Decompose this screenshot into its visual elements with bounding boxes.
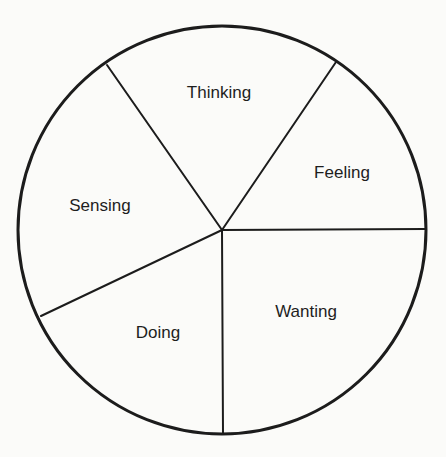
sector-label-feeling: Feeling [314, 163, 370, 182]
divider-feeling-wanting [222, 229, 425, 230]
divider-doing-sensing [41, 230, 222, 316]
sector-label-thinking: Thinking [187, 83, 251, 102]
sector-label-wanting: Wanting [275, 302, 337, 321]
pie-diagram: Thinking Feeling Wanting Doing Sensing [0, 0, 446, 457]
divider-wanting-doing [222, 230, 223, 434]
sector-label-doing: Doing [136, 323, 180, 342]
sector-label-sensing: Sensing [69, 196, 130, 215]
